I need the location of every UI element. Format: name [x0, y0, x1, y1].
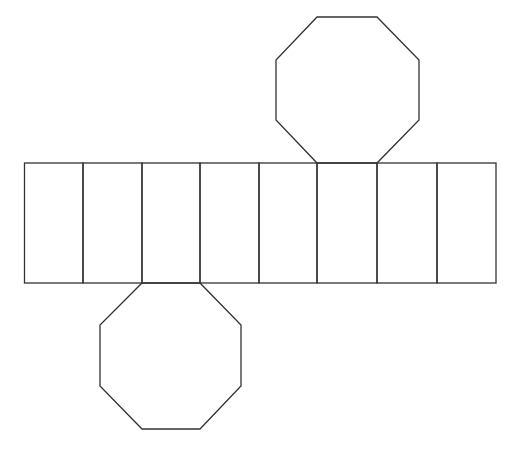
- lateral-face-6: [317, 163, 377, 283]
- lateral-face-3: [142, 163, 200, 283]
- lateral-face-2: [83, 163, 142, 283]
- octagonal-prism-net: [0, 0, 514, 462]
- lateral-face-1: [25, 163, 84, 283]
- lateral-face-4: [200, 163, 259, 283]
- lateral-face-8: [437, 163, 496, 283]
- lateral-faces: [25, 163, 497, 283]
- top-octagon-base: [276, 17, 419, 163]
- diagram-canvas: Net of an octagonal prism Eight congruen…: [0, 0, 514, 462]
- bottom-octagon-base: [100, 283, 241, 429]
- lateral-face-7: [377, 163, 437, 283]
- lateral-face-5: [259, 163, 317, 283]
